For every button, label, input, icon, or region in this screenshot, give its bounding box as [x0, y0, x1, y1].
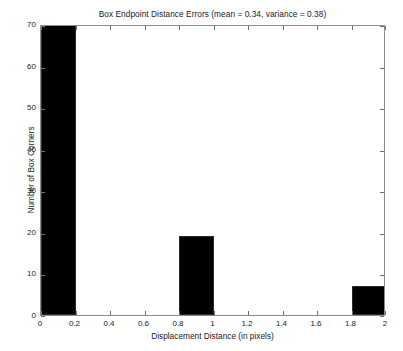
- histogram-figure: Box Endpoint Distance Errors (mean = 0.3…: [0, 0, 403, 351]
- x-axis-tick: [214, 311, 215, 315]
- x-axis-tick: [385, 311, 386, 315]
- histogram-bar: [179, 236, 214, 315]
- y-axis-tick: [380, 109, 384, 110]
- histogram-bar: [352, 286, 385, 315]
- x-axis-tick-labels: 00.20.40.60.811.21.41.61.82: [40, 319, 385, 331]
- x-axis-tick: [283, 311, 284, 315]
- x-axis-tick: [145, 311, 146, 315]
- x-axis-tick: [317, 311, 318, 315]
- y-axis-tick: [380, 275, 384, 276]
- y-axis-tick: [380, 192, 384, 193]
- y-axis-tick: [41, 316, 45, 317]
- y-axis-tick: [41, 234, 45, 235]
- plot-area: [40, 25, 385, 316]
- x-axis-title: Displacement Distance (in pixels): [40, 331, 385, 341]
- y-axis-tick: [41, 26, 45, 27]
- y-axis-tick: [41, 151, 45, 152]
- x-axis-tick: [352, 311, 353, 315]
- x-axis-tick: [179, 26, 180, 30]
- x-axis-tick: [214, 26, 215, 30]
- y-axis-tick: [41, 192, 45, 193]
- x-axis-tick: [145, 26, 146, 30]
- x-axis-tick: [110, 311, 111, 315]
- y-axis-tick: [380, 68, 384, 69]
- y-axis-tick: [380, 26, 384, 27]
- x-axis-tick: [248, 311, 249, 315]
- y-axis-tick: [41, 275, 45, 276]
- x-axis-tick: [317, 26, 318, 30]
- chart-title: Box Endpoint Distance Errors (mean = 0.3…: [40, 9, 385, 19]
- y-axis-tick-label: 10: [2, 270, 36, 278]
- y-axis-tick: [41, 68, 45, 69]
- y-axis-tick-label: 70: [2, 21, 36, 29]
- x-axis-tick: [41, 311, 42, 315]
- x-axis-tick: [385, 26, 386, 30]
- x-axis-tick: [110, 26, 111, 30]
- x-axis-tick: [179, 311, 180, 315]
- x-axis-tick: [76, 311, 77, 315]
- x-axis-tick-label: 2: [365, 319, 403, 328]
- x-axis-tick: [352, 26, 353, 30]
- x-axis-tick: [76, 26, 77, 30]
- y-axis-tick: [380, 234, 384, 235]
- y-axis-tick: [41, 109, 45, 110]
- bars-layer: [41, 26, 384, 315]
- histogram-bar: [41, 26, 76, 315]
- x-axis-tick: [248, 26, 249, 30]
- y-axis-tick-label: 60: [2, 63, 36, 71]
- y-axis-title: Number of Box Corners: [26, 90, 36, 250]
- x-axis-tick: [283, 26, 284, 30]
- y-axis-tick: [380, 151, 384, 152]
- y-axis-tick: [380, 316, 384, 317]
